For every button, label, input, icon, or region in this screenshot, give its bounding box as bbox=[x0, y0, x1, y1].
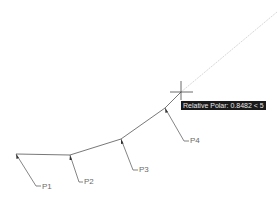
point-label-p1: P1 bbox=[42, 183, 52, 191]
point-label-p2: P2 bbox=[84, 178, 94, 186]
leader-p4 bbox=[165, 108, 189, 141]
point-label-p4: P4 bbox=[190, 137, 200, 145]
polar-tracking-line bbox=[181, 12, 277, 92]
leader-p3 bbox=[121, 139, 138, 170]
leader-p1 bbox=[16, 154, 41, 186]
point-label-p3: P3 bbox=[139, 166, 149, 174]
polyline-path[interactable] bbox=[16, 92, 181, 155]
relative-polar-tooltip: Relative Polar: 0.8482 < 5 bbox=[181, 101, 266, 110]
crosshair-cursor-icon bbox=[170, 81, 193, 100]
arrowhead-icon bbox=[121, 139, 124, 144]
leader-p2 bbox=[70, 155, 84, 182]
